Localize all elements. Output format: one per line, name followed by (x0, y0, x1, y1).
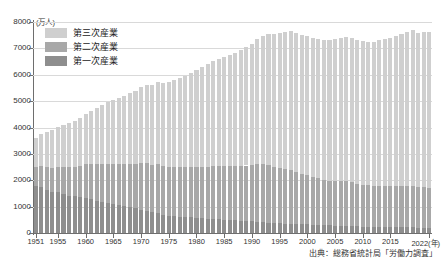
bar-1992 (261, 36, 265, 233)
bar-segment-tertiary (61, 125, 65, 167)
bar-segment-secondary (399, 186, 403, 227)
bar-1986 (228, 55, 232, 233)
gridline-0 (33, 233, 432, 234)
bar-segment-tertiary (394, 36, 398, 186)
bar-segment-tertiary (361, 41, 365, 185)
bar-segment-secondary (122, 164, 126, 206)
x-tick-label-1990: 1990 (244, 237, 261, 246)
legend-item-secondary: 第二次産業 (45, 41, 118, 52)
bar-segment-tertiary (89, 111, 93, 164)
bar-1995 (278, 33, 282, 233)
bar-segment-secondary (84, 164, 88, 197)
bar-segment-tertiary (128, 93, 132, 164)
bar-1991 (255, 39, 259, 233)
bar-segment-primary (150, 212, 154, 233)
bar-2016 (394, 36, 398, 233)
bar-segment-primary (322, 225, 326, 233)
bar-segment-primary (388, 227, 392, 233)
bar-1952 (39, 134, 43, 233)
bar-1976 (172, 80, 176, 233)
bar-segment-tertiary (133, 91, 137, 164)
bar-1960 (84, 114, 88, 233)
bar-segment-tertiary (278, 33, 282, 168)
bar-segment-tertiary (305, 36, 309, 175)
x-tick-label-2010: 2010 (354, 237, 371, 246)
legend-label-primary: 第一次産業 (73, 56, 118, 66)
bar-segment-primary (272, 223, 276, 233)
bar-segment-primary (350, 226, 354, 233)
bar-2009 (355, 40, 359, 233)
bar-segment-tertiary (422, 32, 426, 187)
bar-segment-secondary (156, 164, 160, 213)
bar-segment-secondary (194, 167, 198, 218)
bar-segment-tertiary (322, 40, 326, 180)
bar-1982 (206, 64, 210, 233)
bar-segment-secondary (100, 164, 104, 202)
bar-segment-primary (156, 213, 160, 233)
bar-segment-secondary (366, 185, 370, 227)
y-tick-label-4000: 4000 (1, 124, 31, 132)
y-tick-label-1000: 1000 (1, 203, 31, 211)
bar-segment-secondary (394, 186, 398, 227)
bar-1967 (122, 96, 126, 233)
bar-segment-tertiary (117, 98, 121, 164)
bar-segment-secondary (361, 185, 365, 227)
bar-segment-secondary (355, 184, 359, 227)
bar-1977 (178, 78, 182, 233)
bar-1983 (211, 61, 215, 233)
x-tick-label-2015: 2015 (382, 237, 399, 246)
bar-segment-tertiary (111, 100, 115, 164)
bar-2018 (405, 32, 409, 233)
bar-segment-tertiary (294, 33, 298, 172)
y-tick-4000 (29, 128, 33, 129)
bar-segment-primary (422, 228, 426, 233)
x-tick-label-1951: 1951 (27, 237, 44, 246)
x-tick-2015 (390, 234, 391, 238)
bar-segment-primary (333, 226, 337, 233)
bar-segment-primary (355, 226, 359, 233)
x-tick-1960 (86, 234, 87, 238)
bar-1972 (150, 85, 154, 233)
bar-segment-tertiary (228, 55, 232, 166)
bar-segment-secondary (311, 177, 315, 225)
bar-segment-secondary (183, 167, 187, 217)
bar-1999 (300, 35, 304, 233)
bar-segment-primary (250, 221, 254, 233)
x-tick-label-1970: 1970 (133, 237, 150, 246)
bar-segment-secondary (211, 166, 215, 218)
bar-segment-primary (377, 227, 381, 233)
bar-segment-secondary (34, 167, 38, 186)
bar-segment-secondary (200, 167, 204, 219)
bar-segment-primary (294, 224, 298, 233)
bar-2015 (388, 38, 392, 233)
bar-1969 (133, 91, 137, 233)
bar-segment-tertiary (333, 39, 337, 181)
bar-segment-secondary (217, 166, 221, 219)
y-tick-label-5000: 5000 (1, 97, 31, 105)
bar-segment-primary (394, 227, 398, 233)
bar-segment-tertiary (311, 38, 315, 177)
bar-segment-tertiary (339, 38, 343, 181)
bar-segment-secondary (139, 163, 143, 210)
bar-segment-tertiary (50, 130, 54, 168)
bar-segment-tertiary (39, 134, 43, 166)
bar-segment-primary (56, 192, 60, 233)
y-tick-7000 (29, 48, 33, 49)
bar-segment-primary (167, 216, 171, 233)
bar-segment-primary (405, 227, 409, 233)
bar-segment-tertiary (106, 102, 110, 163)
bar-1994 (272, 34, 276, 233)
bar-1966 (117, 98, 121, 233)
x-tick-2022 (429, 234, 430, 238)
bar-segment-secondary (50, 168, 54, 192)
bar-segment-tertiary (78, 118, 82, 166)
bar-2000 (305, 36, 309, 233)
bar-segment-tertiary (255, 39, 259, 164)
bar-segment-secondary (167, 167, 171, 215)
bar-segment-secondary (250, 165, 254, 221)
bar-segment-secondary (405, 186, 409, 228)
bar-2022 (427, 32, 431, 234)
bar-segment-primary (316, 225, 320, 233)
bar-segment-tertiary (411, 30, 415, 186)
bar-segment-secondary (261, 164, 265, 222)
